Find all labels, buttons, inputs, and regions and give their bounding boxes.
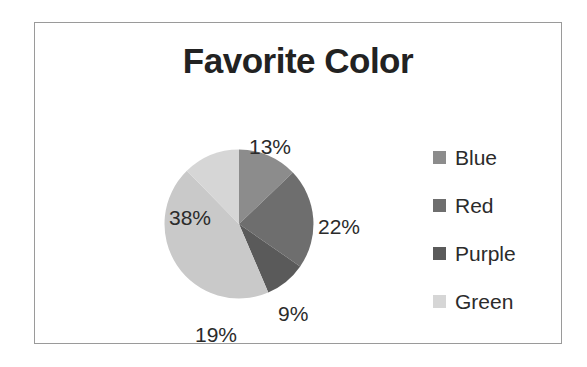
legend-swatch-icon-green (433, 295, 446, 308)
legend-swatch-icon-blue (433, 151, 446, 164)
legend-item-purple[interactable]: Purple (433, 229, 553, 277)
plot-area: 13% 22% 9% 38% 19% Blue Red Purple Green (35, 23, 561, 343)
legend-swatch-icon-red (433, 199, 446, 212)
legend-label-green: Green (455, 291, 513, 312)
legend-label-red: Red (455, 195, 494, 216)
chart-legend: Blue Red Purple Green (433, 133, 553, 325)
legend-item-blue[interactable]: Blue (433, 133, 553, 181)
legend-swatch-icon-purple (433, 247, 446, 260)
legend-label-blue: Blue (455, 147, 497, 168)
pie-label-green-38: 38% (169, 206, 211, 230)
legend-item-red[interactable]: Red (433, 181, 553, 229)
pie-label-green-19: 19% (195, 323, 237, 347)
legend-label-purple: Purple (455, 243, 516, 264)
legend-item-green[interactable]: Green (433, 277, 553, 325)
pie-label-blue: 13% (249, 135, 291, 159)
pie-label-red: 22% (318, 215, 360, 239)
chart-frame: Favorite Color 13% 22% 9% 38% 19% (34, 22, 562, 344)
pie-label-purple: 9% (278, 302, 308, 326)
